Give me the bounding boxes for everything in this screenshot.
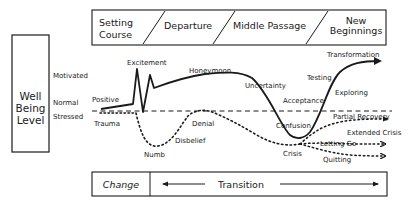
level-label-normal: Normal xyxy=(53,99,78,107)
transition-curve-solid xyxy=(101,61,380,138)
phase-setting-course-line-2: Course xyxy=(99,29,132,40)
label-positive: Positive xyxy=(92,96,119,104)
phase-new-beginnings-line-2: Beginnings xyxy=(330,25,383,36)
label-acceptance: Acceptance xyxy=(283,97,324,105)
label-testing: Testing xyxy=(306,74,332,82)
change-transition-bar: Change Transition xyxy=(92,172,387,196)
label-quitting: Quitting xyxy=(323,156,351,164)
change-label: Change xyxy=(103,179,140,190)
phases-header: Setting Course Departure Middle Passage … xyxy=(92,10,386,45)
label-trauma: Trauma xyxy=(93,120,120,128)
label-denial: Denial xyxy=(192,120,214,128)
label-honeymoon: Honeymoon xyxy=(189,67,231,75)
phase-middle-passage: Middle Passage xyxy=(233,20,306,31)
label-excitement: Excitement xyxy=(127,59,167,67)
well-being-level-box: Well Being Level xyxy=(12,35,49,152)
label-numb: Numb xyxy=(144,151,165,159)
label-letting-go: Letting Go xyxy=(320,140,356,148)
label-uncertainty: Uncertainty xyxy=(245,82,286,90)
level-label-motivated: Motivated xyxy=(53,72,88,80)
label-transformation: Transformation xyxy=(326,51,380,59)
phase-setting-course-line-1: Setting xyxy=(99,17,133,28)
well-being-line-1: Well xyxy=(19,90,41,102)
change-transition-diagram: Well Being Level Motivated Normal Stress… xyxy=(0,0,414,207)
transition-label: Transition xyxy=(217,179,264,190)
label-partial-recovery: Partial Recovery xyxy=(333,113,390,121)
label-exploring: Exploring xyxy=(335,89,368,97)
label-confusion: Confusion xyxy=(276,122,311,130)
label-crisis: Crisis xyxy=(283,150,302,158)
label-disbelief: Disbelief xyxy=(175,137,206,145)
label-extended-crisis: Extended Crisis xyxy=(347,129,402,137)
phase-departure: Departure xyxy=(164,20,212,31)
well-being-line-2: Being xyxy=(16,102,46,114)
level-label-stressed: Stressed xyxy=(53,113,83,121)
well-being-line-3: Level xyxy=(17,114,45,126)
